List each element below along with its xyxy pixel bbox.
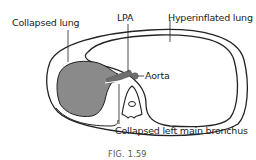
label-collapsed-lung: Collapsed lung: [12, 17, 79, 28]
aorta-circle: [132, 73, 138, 79]
label-hyperinflated-lung: Hyperinflated lung: [168, 12, 253, 23]
label-lpa: LPA: [117, 12, 133, 23]
label-aorta: Aorta: [145, 70, 170, 81]
vertebral-foramen: [129, 102, 136, 107]
figure-caption: FIG. 1.59: [108, 150, 147, 159]
collapsed-lung-shape: [57, 61, 118, 116]
label-collapsed-bronchus: Collapsed left main bronchus: [115, 125, 248, 136]
